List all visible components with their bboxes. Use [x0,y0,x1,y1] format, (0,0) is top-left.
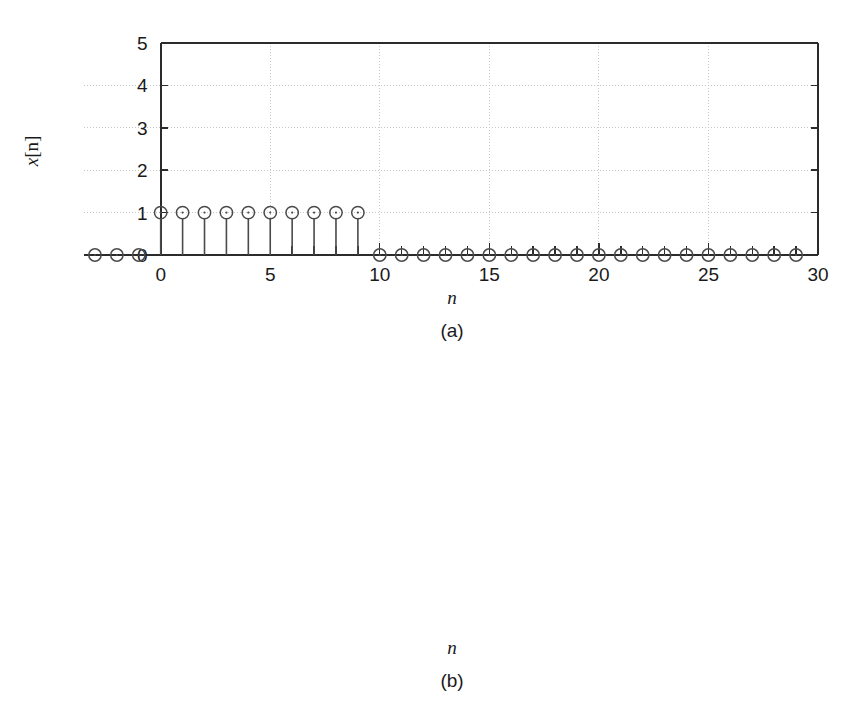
svg-text:25: 25 [698,264,719,285]
svg-text:10: 10 [369,264,390,285]
panel-caption-a: (a) [412,320,492,342]
svg-text:20: 20 [588,264,609,285]
plot-panel-b: 0246051015202530 y[n] n (b) [0,360,859,723]
y-axis-index: [n] [21,136,42,158]
svg-text:1: 1 [137,203,148,224]
y-axis-var: x [21,158,42,166]
stem-plot-b: 0246051015202530 [0,360,859,723]
svg-text:0: 0 [155,264,166,285]
svg-text:5: 5 [137,33,148,54]
y-axis-label-a: x[n] [21,111,43,191]
svg-text:3: 3 [137,118,148,139]
svg-text:4: 4 [137,75,148,96]
svg-text:2: 2 [137,160,148,181]
panel-caption-b: (b) [412,670,492,692]
svg-text:5: 5 [265,264,276,285]
figure-container: 012345051015202530 x[n] n (a) 0246051015… [0,0,859,723]
x-axis-label-a: n [412,287,492,309]
svg-text:15: 15 [479,264,500,285]
plot-panel-a: 012345051015202530 x[n] n (a) [0,0,859,360]
svg-text:30: 30 [807,264,828,285]
x-axis-label-b: n [412,637,492,659]
